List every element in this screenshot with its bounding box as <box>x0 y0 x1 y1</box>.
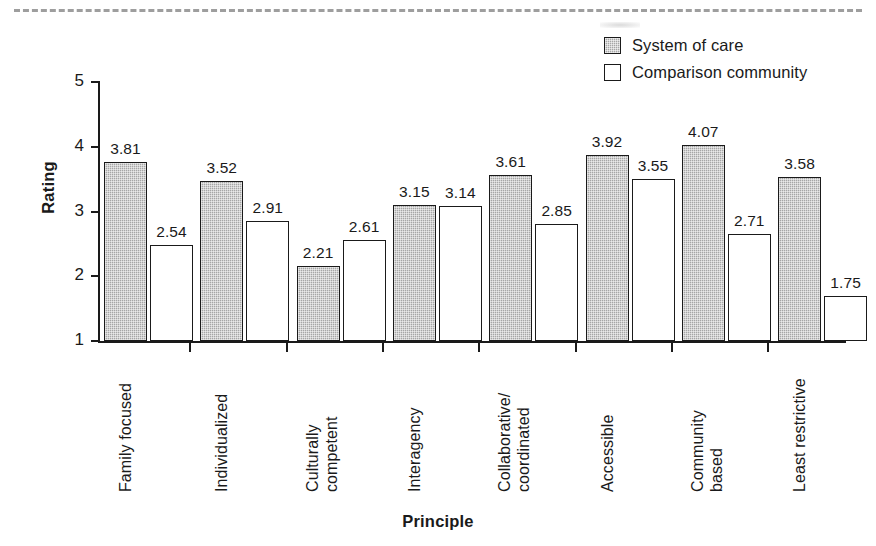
x-axis-tick <box>575 342 577 352</box>
y-axis-tick-label: 2 <box>44 265 84 285</box>
system-of-care-1-value-label: 3.52 <box>192 159 251 177</box>
y-axis-tick <box>91 211 100 213</box>
x-axis-category-label: Interagency <box>405 407 424 492</box>
x-axis-category-label: Community based <box>688 410 726 492</box>
comparison-community-1-value-label: 2.91 <box>238 199 297 217</box>
x-axis-tick <box>478 342 480 352</box>
x-axis-tick <box>767 342 769 352</box>
y-axis-tick <box>91 81 100 83</box>
x-axis-category-label: Culturally competent <box>303 416 341 492</box>
system-of-care-1-bar <box>200 181 243 341</box>
system-of-care-4-value-label: 3.61 <box>481 153 540 171</box>
comparison-community-5-value-label: 3.55 <box>624 157 683 175</box>
system-of-care-7-value-label: 3.58 <box>770 155 829 173</box>
system-of-care-3-bar <box>393 205 436 341</box>
y-axis-tick-label: 1 <box>44 330 84 350</box>
x-axis-title: Principle <box>0 512 876 531</box>
system-of-care-6-value-label: 4.07 <box>674 123 733 141</box>
comparison-community-2-bar <box>343 240 386 341</box>
x-axis-tick <box>382 342 384 352</box>
system-of-care-2-value-label: 2.21 <box>289 244 348 262</box>
comparison-community-6-value-label: 2.71 <box>720 212 779 230</box>
x-axis-category-label: Family focused <box>116 383 135 492</box>
x-axis-tick <box>189 342 191 352</box>
system-of-care-5-bar <box>586 155 629 341</box>
x-axis-tick <box>286 342 288 352</box>
system-of-care-0-bar <box>104 162 147 341</box>
comparison-community-6-bar <box>728 234 771 341</box>
x-axis-category-label: Individualized <box>212 394 231 492</box>
comparison-community-3-value-label: 3.14 <box>431 184 490 202</box>
system-of-care-5-value-label: 3.92 <box>578 133 637 151</box>
y-axis-tick-label: 5 <box>44 71 84 91</box>
system-of-care-7-bar <box>778 177 821 341</box>
comparison-community-7-bar <box>824 296 867 341</box>
system-of-care-6-bar <box>682 145 725 341</box>
comparison-community-4-bar <box>535 224 578 341</box>
comparison-community-5-bar <box>632 179 675 341</box>
system-of-care-4-bar <box>489 175 532 341</box>
comparison-community-3-bar <box>439 206 482 341</box>
comparison-community-2-value-label: 2.61 <box>335 218 394 236</box>
x-axis-category-label: Accessible <box>598 415 617 492</box>
system-of-care-0-value-label: 3.81 <box>96 140 155 158</box>
x-axis-category-label: Collaborative/ coordinated <box>495 393 533 492</box>
bar-chart-plot-area: 12345 Rating Principle 3.812.543.522.912… <box>0 0 876 546</box>
system-of-care-2-bar <box>297 266 340 341</box>
comparison-community-0-value-label: 2.54 <box>142 223 201 241</box>
y-axis-title: Rating <box>39 133 58 243</box>
y-axis-tick <box>91 275 100 277</box>
comparison-community-1-bar <box>246 221 289 341</box>
x-axis-line <box>98 341 846 343</box>
comparison-community-4-value-label: 2.85 <box>527 202 586 220</box>
comparison-community-0-bar <box>150 245 193 341</box>
x-axis-category-label: Least restrictive <box>790 378 809 492</box>
x-axis-tick <box>671 342 673 352</box>
y-axis-tick <box>91 340 100 342</box>
comparison-community-7-value-label: 1.75 <box>816 274 875 292</box>
